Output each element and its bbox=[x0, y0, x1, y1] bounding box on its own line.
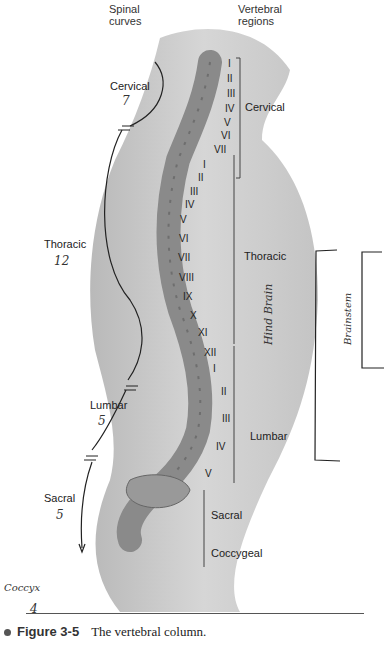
header-line: regions bbox=[238, 15, 282, 27]
thoracic-numeral: V bbox=[180, 214, 187, 225]
curve-sacral-label: Sacral bbox=[44, 492, 75, 504]
thoracic-numeral: I bbox=[203, 159, 206, 170]
curve-thoracic-label: Thoracic bbox=[44, 238, 86, 250]
lumbar-numeral: I bbox=[213, 363, 216, 374]
handwritten-coccyx: Coccyx bbox=[4, 582, 40, 593]
header-line: Spinal bbox=[109, 3, 141, 15]
caption-divider bbox=[26, 613, 364, 614]
cervical-numeral: VI bbox=[221, 130, 230, 141]
lumbar-numeral: III bbox=[222, 413, 230, 424]
thoracic-numeral: XII bbox=[204, 347, 216, 358]
thoracic-numeral: IV bbox=[185, 199, 194, 210]
lumbar-numeral: II bbox=[221, 386, 227, 397]
handwritten-brainstem: Brainstem bbox=[342, 293, 353, 345]
cervical-numeral: I bbox=[228, 58, 231, 69]
handwritten-hind-brain: Hind Brain bbox=[262, 284, 275, 345]
thoracic-numeral: XI bbox=[198, 327, 207, 338]
header-line: curves bbox=[109, 15, 141, 27]
thoracic-numeral: IX bbox=[183, 291, 192, 302]
lumbar-numeral: IV bbox=[216, 441, 225, 452]
curve-sacral-count: 5 bbox=[56, 508, 64, 522]
curve-lumbar-count: 5 bbox=[98, 414, 106, 428]
region-coccygeal-label: Coccygeal bbox=[211, 547, 262, 559]
curve-cervical-label: Cervical bbox=[110, 80, 150, 92]
lumbar-numeral: V bbox=[205, 468, 212, 479]
cervical-numeral: V bbox=[224, 117, 231, 128]
thoracic-numeral: X bbox=[190, 310, 197, 321]
curve-lumbar-label: Lumbar bbox=[90, 399, 127, 411]
thoracic-numeral: II bbox=[198, 172, 204, 183]
region-thoracic-label: Thoracic bbox=[244, 250, 286, 262]
region-cervical-label: Cervical bbox=[245, 101, 285, 113]
cervical-numeral: II bbox=[227, 73, 233, 84]
header-line: Vertebral bbox=[238, 3, 282, 15]
cervical-numeral: VII bbox=[214, 144, 226, 155]
cervical-numeral: III bbox=[227, 88, 235, 99]
figure-caption: Figure 3-5The vertebral column. bbox=[4, 624, 206, 640]
thoracic-numeral: VII bbox=[178, 252, 190, 263]
region-sacral-label: Sacral bbox=[211, 509, 242, 521]
bullet-icon bbox=[4, 629, 11, 636]
thoracic-numeral: VI bbox=[179, 233, 188, 244]
region-lumbar-label: Lumbar bbox=[250, 430, 287, 442]
caption-text: The vertebral column. bbox=[91, 624, 206, 639]
cervical-numeral: IV bbox=[225, 103, 234, 114]
thoracic-numeral: III bbox=[190, 186, 198, 197]
spine-illustration bbox=[0, 0, 386, 657]
curve-thoracic-count: 12 bbox=[54, 254, 69, 268]
curve-cervical-count: 7 bbox=[122, 94, 130, 108]
figure-number: Figure 3-5 bbox=[17, 624, 79, 639]
thoracic-numeral: VIII bbox=[179, 272, 194, 283]
vertebral-regions-header: Vertebral regions bbox=[238, 3, 282, 27]
spinal-curves-header: Spinal curves bbox=[109, 3, 141, 27]
